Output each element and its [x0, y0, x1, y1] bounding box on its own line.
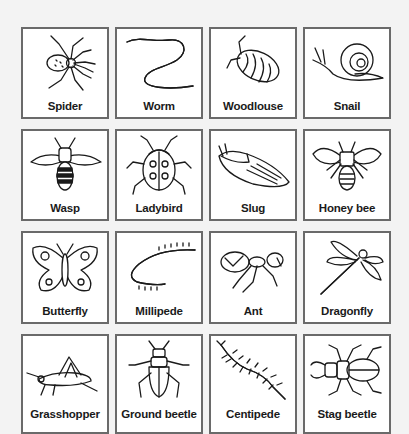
ant-icon	[213, 236, 293, 298]
card-ant: Ant	[209, 231, 297, 324]
card-butterfly: Butterfly	[21, 231, 109, 324]
centipede-icon	[213, 339, 293, 401]
card-dragonfly: Dragonfly	[303, 231, 391, 324]
card-wasp: Wasp	[21, 129, 109, 221]
card-woodlouse: Woodlouse	[209, 27, 297, 119]
card-label: Centipede	[211, 408, 295, 420]
card-label: Worm	[117, 100, 201, 112]
card-label: Ladybird	[117, 202, 201, 214]
card-slug: Slug	[209, 129, 297, 221]
card-grasshopper: Grasshopper	[21, 334, 109, 434]
snail-icon	[307, 32, 387, 94]
ground-beetle-icon	[119, 339, 199, 401]
woodlouse-icon	[213, 32, 293, 94]
dragonfly-icon	[307, 236, 387, 298]
card-label: Millipede	[117, 305, 201, 317]
card-spider: Spider	[21, 27, 109, 119]
card-ladybird: Ladybird	[115, 129, 203, 221]
slug-icon	[213, 134, 293, 196]
card-label: Woodlouse	[211, 100, 295, 112]
card-label: Spider	[23, 100, 107, 112]
card-millipede: Millipede	[115, 231, 203, 324]
card-label: Butterfly	[23, 305, 107, 317]
card-honey-bee: Honey bee	[303, 129, 391, 221]
spider-icon	[25, 32, 105, 94]
millipede-icon	[119, 236, 199, 298]
card-snail: Snail	[303, 27, 391, 119]
card-centipede: Centipede	[209, 334, 297, 434]
worm-icon	[119, 32, 199, 94]
card-ground-beetle: Ground beetle	[115, 334, 203, 434]
wasp-icon	[25, 134, 105, 196]
card-worm: Worm	[115, 27, 203, 119]
card-label: Honey bee	[305, 202, 389, 214]
card-label: Ant	[211, 305, 295, 317]
card-label: Wasp	[23, 202, 107, 214]
card-label: Stag beetle	[305, 408, 389, 420]
ladybird-icon	[119, 134, 199, 196]
card-label: Ground beetle	[117, 408, 201, 420]
butterfly-icon	[25, 236, 105, 298]
card-label: Snail	[305, 100, 389, 112]
grasshopper-icon	[25, 339, 105, 401]
card-stag-beetle: Stag beetle	[303, 334, 391, 434]
card-label: Slug	[211, 202, 295, 214]
card-label: Dragonfly	[305, 305, 389, 317]
honey-bee-icon	[307, 134, 387, 196]
minibeast-card-grid: Spider Worm Woodlouse Snail	[21, 27, 391, 434]
stag-beetle-icon	[307, 339, 387, 401]
card-label: Grasshopper	[23, 408, 107, 420]
